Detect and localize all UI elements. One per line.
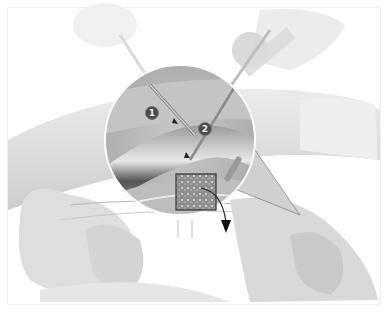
tissue-detail-box xyxy=(176,174,216,238)
step-marker-2: 2 xyxy=(198,122,212,136)
biopsy-illustration xyxy=(0,0,390,318)
step-marker-1: 1 xyxy=(145,106,159,120)
